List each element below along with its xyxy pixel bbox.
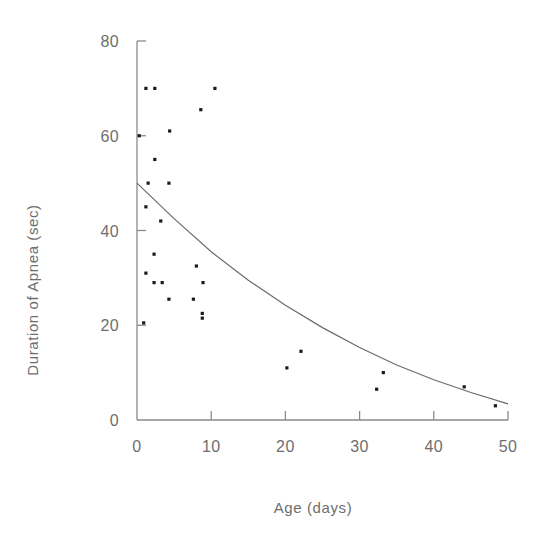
data-point [201, 317, 204, 320]
x-tick-label: 30 [350, 438, 369, 455]
data-point [153, 158, 156, 161]
data-point [463, 385, 466, 388]
y-tick-label: 40 [100, 223, 119, 240]
data-point [144, 205, 147, 208]
data-point [153, 87, 156, 90]
data-point [138, 134, 141, 137]
data-point [195, 264, 198, 267]
data-point [213, 87, 216, 90]
data-point [144, 87, 147, 90]
data-point [152, 253, 155, 256]
data-point [167, 182, 170, 185]
x-tick-label: 50 [499, 438, 518, 455]
x-tick-label: 10 [202, 438, 221, 455]
y-tick-label: 60 [100, 128, 119, 145]
x-tick-label: 40 [424, 438, 443, 455]
y-tick-label: 80 [100, 33, 119, 50]
data-point [142, 321, 145, 324]
data-point [192, 298, 195, 301]
apnea-duration-scatter-chart: 01020304050020406080 Duration of Apnea (… [0, 0, 547, 554]
data-point [199, 108, 202, 111]
data-point [152, 281, 155, 284]
data-point [168, 129, 171, 132]
data-point [494, 404, 497, 407]
y-axis-label: Duration of Apnea (sec) [24, 204, 41, 375]
y-tick-label: 0 [110, 412, 119, 429]
data-point [285, 366, 288, 369]
data-point [201, 281, 204, 284]
x-tick-label: 20 [276, 438, 295, 455]
data-point [147, 182, 150, 185]
data-point [144, 272, 147, 275]
data-point [201, 312, 204, 315]
chart-background [0, 0, 547, 554]
y-tick-label: 20 [100, 317, 119, 334]
data-point [159, 219, 162, 222]
x-axis-label: Age (days) [274, 499, 353, 516]
data-point [161, 281, 164, 284]
data-point [299, 350, 302, 353]
data-point [167, 298, 170, 301]
data-point [382, 371, 385, 374]
data-point [375, 388, 378, 391]
x-tick-label: 0 [132, 438, 141, 455]
